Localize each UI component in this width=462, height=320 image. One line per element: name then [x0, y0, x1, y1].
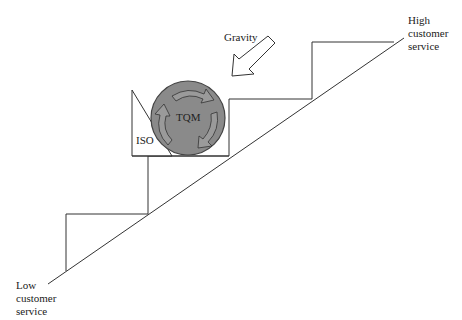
incline-line [48, 38, 404, 284]
staircase [66, 42, 394, 271]
diagram-canvas [0, 0, 462, 320]
iso-label: ISO [136, 134, 154, 147]
low-customer-service-label: Low customer service [16, 279, 56, 318]
tqm-label: TQM [176, 111, 200, 124]
high-customer-service-label: High customer service [408, 14, 448, 53]
gravity-label: Gravity [224, 31, 258, 44]
